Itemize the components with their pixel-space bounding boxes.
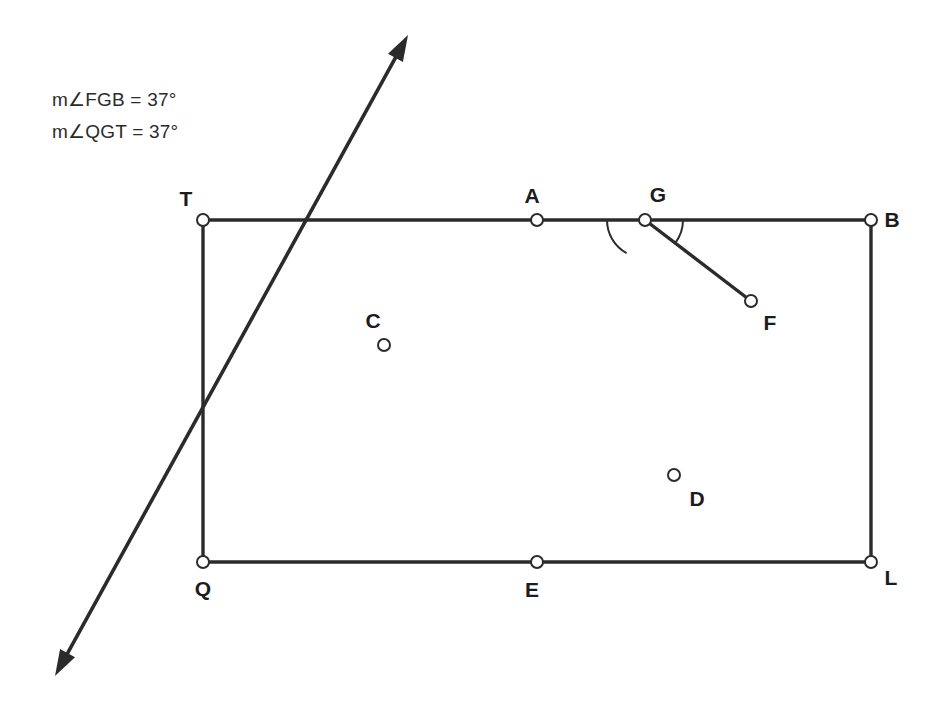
point-label-L: L (885, 566, 898, 590)
point-label-G: G (650, 183, 666, 207)
point-marker-C[interactable] (378, 339, 390, 351)
point-label-A: A (524, 184, 539, 208)
ray-through-Q-and-G-arrowhead (55, 649, 75, 676)
point-label-T: T (180, 187, 193, 211)
point-marker-A[interactable] (531, 214, 543, 226)
point-marker-T[interactable] (197, 214, 209, 226)
point-marker-Q[interactable] (197, 556, 209, 568)
point-marker-F[interactable] (745, 295, 757, 307)
segment-GF (645, 220, 751, 301)
point-label-D: D (689, 487, 704, 511)
point-markers (197, 214, 877, 568)
ray-through-Q-and-G-arrowhead (388, 35, 408, 62)
annotation-angle-qgt: m∠QGT = 37° (52, 120, 178, 143)
point-label-B: B (884, 208, 899, 232)
point-label-E: E (525, 578, 539, 602)
point-marker-L[interactable] (865, 556, 877, 568)
ray-through-Q-and-G-shaft (65, 54, 397, 658)
point-marker-D[interactable] (668, 469, 680, 481)
point-marker-E[interactable] (531, 556, 543, 568)
annotation-angle-fgb: m∠FGB = 37° (52, 88, 176, 111)
diagram-canvas: m∠FGB = 37°m∠QGT = 37° TAGBCFDQEL (0, 0, 941, 709)
point-marker-B[interactable] (865, 214, 877, 226)
point-label-Q: Q (195, 577, 211, 601)
point-label-F: F (764, 311, 777, 335)
arc-QGT (607, 220, 627, 253)
point-marker-G[interactable] (639, 214, 651, 226)
point-label-C: C (365, 309, 380, 333)
arc-FGB (675, 220, 683, 243)
